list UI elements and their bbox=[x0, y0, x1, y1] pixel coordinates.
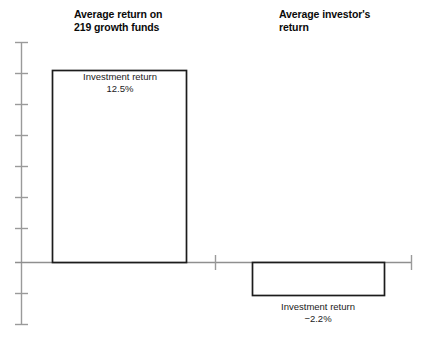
chart-title-investor-return: Average investor's return bbox=[279, 8, 370, 33]
chart-title-growth-funds: Average return on 219 growth funds bbox=[74, 8, 162, 33]
growth-funds-bar-label: Investment return 12.5% bbox=[52, 71, 188, 95]
investor-return-bar bbox=[253, 263, 385, 296]
investor-return-bar-label: Investment return −2.2% bbox=[250, 301, 386, 325]
growth-funds-bar bbox=[53, 71, 187, 263]
bar-chart: Average return on 219 growth funds Avera… bbox=[0, 0, 429, 338]
chart-canvas bbox=[0, 0, 429, 338]
